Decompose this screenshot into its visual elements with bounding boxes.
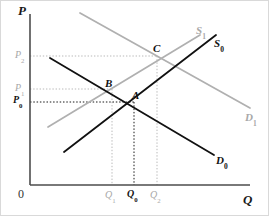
curve-label-d1-sub: 1: [253, 119, 257, 128]
supply-demand-diagram: P Q 0 S1 S0 D1 D0 B A C P2 P1 P0 Q1 Q0 Q…: [0, 0, 269, 216]
plot-canvas: [0, 0, 269, 216]
curve-label-d1: D1: [245, 112, 257, 123]
curve-label-s1-sub: 1: [202, 32, 206, 41]
x-axis-label: Q: [243, 193, 252, 206]
point-label-a: A: [132, 90, 139, 101]
x-tick-q1-sub: 1: [112, 197, 115, 204]
x-tick-q0-sub: 0: [134, 196, 137, 203]
curve-label-s0: S0: [214, 38, 224, 49]
y-tick-p1: P1: [15, 83, 25, 93]
y-tick-p2-sub: 2: [21, 57, 24, 64]
curve-label-s1: S1: [196, 25, 206, 36]
curve-label-d0-base: D: [216, 154, 224, 166]
x-tick-q2-sub: 2: [157, 197, 160, 204]
curve-label-d0-sub: 0: [224, 162, 228, 171]
point-label-c: C: [153, 43, 160, 54]
origin-label: 0: [18, 188, 24, 200]
curve-label-s0-sub: 0: [220, 45, 224, 54]
y-tick-p0: P0: [13, 95, 23, 105]
x-tick-q0: Q0: [127, 189, 138, 199]
y-tick-p0-sub: 0: [19, 102, 22, 109]
x-tick-q1: Q1: [105, 190, 116, 200]
curve-label-d1-base: D: [245, 111, 253, 123]
x-tick-q2: Q2: [150, 190, 161, 200]
point-label-b: B: [105, 78, 112, 89]
curve-label-d0: D0: [216, 155, 228, 166]
y-axis-label: P: [18, 4, 26, 17]
y-tick-p2: P2: [15, 50, 25, 60]
